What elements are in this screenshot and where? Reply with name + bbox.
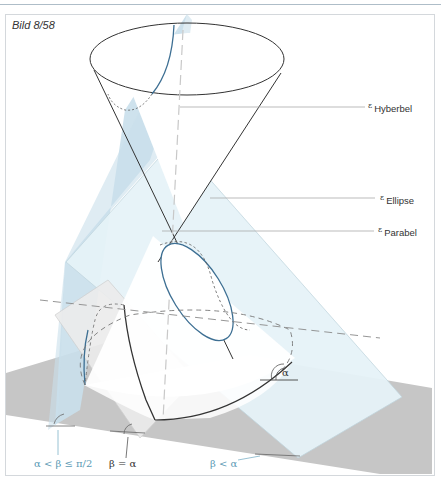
alpha-angle-label: α bbox=[282, 367, 289, 378]
label-parabel: εParabel bbox=[378, 225, 417, 238]
epsilon-symbol: ε bbox=[378, 225, 382, 234]
figure-title: Bild 8/58 bbox=[12, 19, 55, 31]
conic-sections-diagram bbox=[0, 0, 441, 483]
label-hyperbel: εHyberbel bbox=[368, 101, 412, 114]
label-ellipse: εEllipse bbox=[380, 193, 414, 206]
epsilon-symbol: ε bbox=[368, 101, 372, 110]
ellipse-condition: β < α bbox=[210, 458, 237, 469]
parabel-condition: β = α bbox=[109, 458, 136, 469]
epsilon-symbol: ε bbox=[380, 193, 384, 202]
hyperbel-condition: α < β ≤ π/2 bbox=[34, 458, 92, 469]
